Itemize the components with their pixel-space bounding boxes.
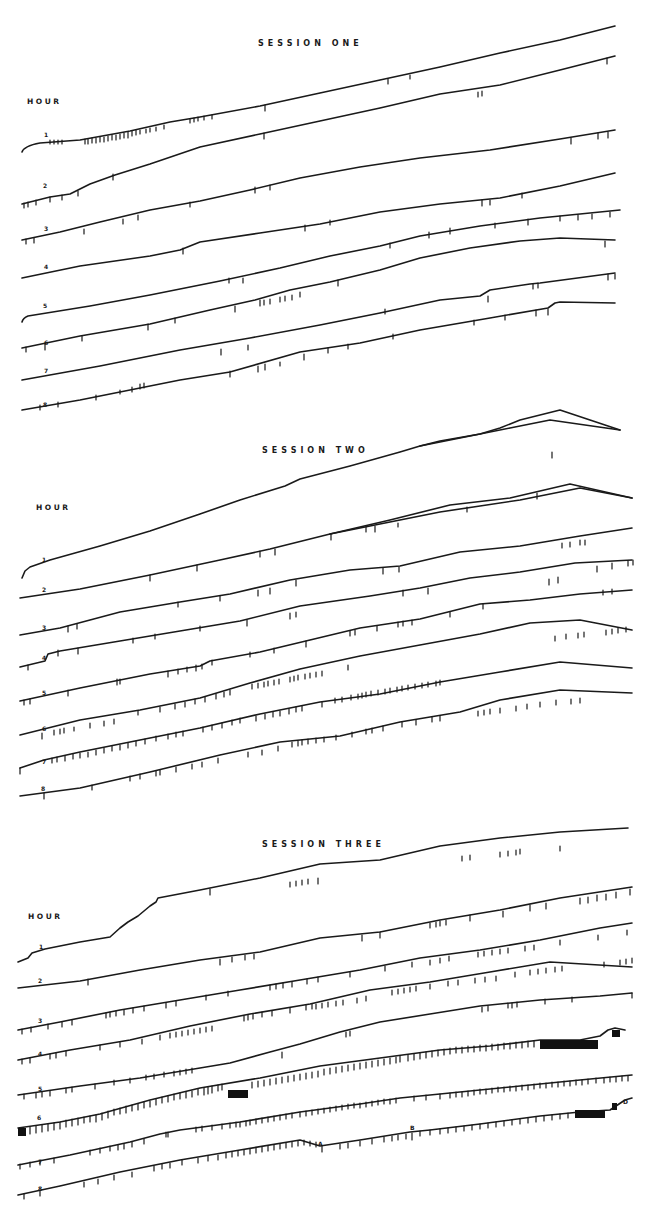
s1-trace-7 <box>22 273 615 380</box>
session-three-traces <box>18 828 632 1199</box>
s2-trace-1b <box>420 420 620 446</box>
s1-trace-2 <box>22 56 615 204</box>
s1-trace-6 <box>22 238 615 348</box>
cumulative-record-traces <box>0 0 660 1215</box>
s2-trace-6 <box>20 620 632 735</box>
s3-trace-4 <box>18 962 632 1060</box>
session-two-traces <box>20 410 633 799</box>
s3-response-burst <box>612 1103 617 1110</box>
s1-trace-5 <box>22 210 620 322</box>
s3-response-burst <box>575 1110 605 1118</box>
s3-trace-1 <box>18 828 628 962</box>
s1-trace-8 <box>22 302 615 410</box>
s3-response-burst <box>612 1030 620 1037</box>
s3-response-burst <box>228 1090 248 1098</box>
session-one-traces <box>22 26 620 410</box>
s1-trace-4 <box>22 173 615 278</box>
s1-trace-1 <box>22 26 615 152</box>
s3-response-burst <box>540 1040 598 1049</box>
s2-trace-3 <box>20 528 632 635</box>
s2-trace-5 <box>20 590 632 701</box>
s3-response-burst <box>18 1128 26 1136</box>
s2-trace-2 <box>20 484 632 598</box>
